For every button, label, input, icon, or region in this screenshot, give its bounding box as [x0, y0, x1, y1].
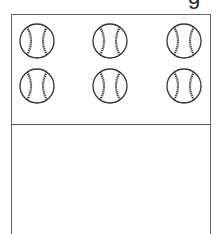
- baseball-icon: [18, 67, 56, 105]
- baseball-icon: [165, 67, 203, 105]
- empty-answer-area: [12, 126, 210, 234]
- baseball-icon: [91, 67, 129, 105]
- baseball-icon: [91, 22, 129, 60]
- partial-heading-text: g: [188, 0, 200, 8]
- frame-divider: [11, 124, 211, 125]
- baseball-icon: [165, 22, 203, 60]
- baseball-icon: [18, 22, 56, 60]
